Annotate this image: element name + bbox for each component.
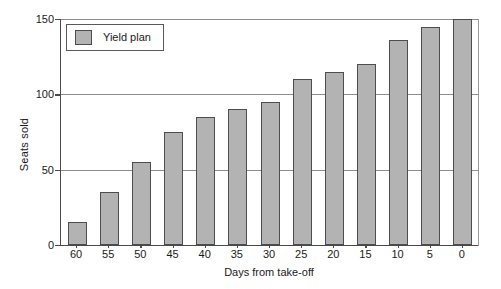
x-axis-tick-label: 5	[415, 248, 445, 261]
y-axis-tick-labels: 050100150	[22, 0, 54, 289]
bar	[389, 40, 408, 245]
x-axis-tick-label: 30	[254, 248, 284, 261]
legend: Yield plan	[66, 24, 164, 51]
bar	[100, 192, 119, 245]
bar	[261, 102, 280, 245]
bar	[325, 72, 344, 245]
x-axis-tick-label: 20	[318, 248, 348, 261]
bar-chart: Seats sold 050100150 6055504540353025201…	[0, 0, 501, 289]
plot-area	[60, 19, 479, 246]
x-axis-tick-label: 0	[447, 248, 477, 261]
x-axis-tick-label: 50	[125, 248, 155, 261]
bars-group	[61, 19, 479, 245]
y-axis-tickmark	[55, 245, 61, 246]
plot-right-border	[478, 19, 479, 246]
y-axis-tick-label: 0	[24, 240, 54, 251]
legend-label: Yield plan	[103, 32, 151, 43]
x-axis-tick-label: 35	[222, 248, 252, 261]
y-axis-tick-label: 50	[24, 164, 54, 175]
bar	[228, 109, 247, 245]
bar	[293, 79, 312, 245]
x-axis-title: Days from take-off	[60, 266, 478, 278]
x-axis-tick-label: 55	[93, 248, 123, 261]
x-axis-tick-labels: 605550454035302520151050	[60, 248, 478, 264]
bar	[132, 162, 151, 245]
y-axis-tick-label: 150	[24, 14, 54, 25]
x-axis-tick-label: 10	[383, 248, 413, 261]
bar	[164, 132, 183, 245]
legend-swatch-icon	[75, 30, 92, 45]
bar	[357, 64, 376, 245]
y-axis-tick-label: 100	[24, 89, 54, 100]
x-axis-tick-label: 40	[190, 248, 220, 261]
x-axis-tick-label: 60	[61, 248, 91, 261]
bar	[68, 222, 87, 245]
bar	[421, 27, 440, 245]
bar	[453, 19, 472, 245]
x-axis-tick-label: 45	[158, 248, 188, 261]
bar	[196, 117, 215, 245]
x-axis-tick-label: 25	[286, 248, 316, 261]
x-axis-tick-label: 15	[350, 248, 380, 261]
